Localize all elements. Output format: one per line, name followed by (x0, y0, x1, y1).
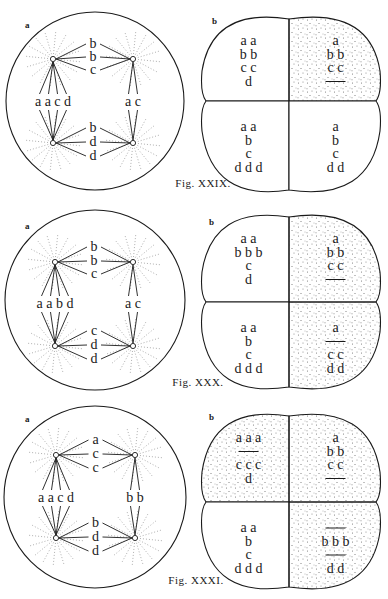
right-spindle: a c (125, 62, 141, 140)
panel-letter-a: a (25, 414, 30, 424)
panel-b-four-cell-embryo: ba ab b bcdab bc ca abcd d dac cd d (202, 215, 381, 389)
chromosome-line: d d d (235, 361, 263, 376)
chromosome-label: d (91, 337, 98, 352)
chromosome-label: c (91, 323, 97, 338)
chromosome-label: d (90, 134, 97, 149)
chromosome-label: b (92, 515, 99, 530)
panel-a-spindle-diagram: aaccbdda a c db b (4, 406, 186, 588)
centrosome (52, 343, 57, 348)
chromosome-label: d (92, 529, 99, 544)
chromosome-group-label: a c (125, 296, 141, 311)
figure-xxix: abbcbdda a c da c ba ab bc cdab bc ca ab… (6, 12, 381, 192)
panel-letter-a: a (25, 20, 30, 30)
figure-plate: abbcbdda a c da c ba ab bc cdab bc ca ab… (0, 0, 388, 599)
chromosome-label: c (91, 266, 97, 281)
left-spindle: a a c d (38, 458, 74, 535)
panel-b-four-cell-embryo: ba a ac c cdab bc ca abcd d db b bd d (202, 412, 381, 589)
panel-letter-a: a (25, 221, 30, 231)
chromosome-line: d d (327, 561, 345, 576)
panel-b-four-cell-embryo: ba ab bc cdab bc ca abcd d dabcd d (202, 16, 381, 192)
chromosome-group-label: a a c d (35, 94, 71, 109)
panel-letter-b: b (209, 412, 214, 422)
chromosome-line: c c (328, 258, 344, 273)
panel-a-spindle-diagram: abbcbdda a c da c (6, 12, 184, 190)
chromosome-line: d d d (235, 561, 263, 576)
plate-svg: abbcbdda a c da c ba ab bc cdab bc ca ab… (0, 0, 388, 599)
centrosome (53, 535, 58, 540)
chromosome-line: d (245, 272, 252, 287)
blastomere-bottom-right (289, 302, 381, 389)
chromosome-group-label: b b (126, 490, 144, 505)
top-spindle: bbc (58, 239, 130, 281)
chromosome-line: d (245, 471, 252, 486)
chromosome-label: d (91, 351, 98, 366)
centrosome (132, 452, 137, 457)
chromosome-line: a (332, 320, 339, 335)
chromosome-label: d (92, 543, 99, 558)
chromosome-label: c (90, 62, 96, 77)
chromosome-line: d (245, 74, 252, 89)
chromosome-group-label: a a c d (38, 490, 74, 505)
bottom-spindle: cdd (58, 323, 130, 366)
left-spindle: a a b d (37, 265, 74, 343)
panel-letter-b: b (209, 217, 214, 227)
centrosome (130, 259, 135, 264)
centrosome (132, 535, 137, 540)
chromosome-group-label: a a b d (37, 296, 74, 311)
right-spindle: b b (126, 458, 144, 535)
chromosome-label: b (90, 120, 97, 135)
chromosome-line: b b b (322, 534, 350, 549)
figure-caption: Fig. XXX. (172, 376, 223, 388)
centrosome (130, 56, 135, 61)
chromosome-line: d d d (235, 160, 263, 175)
centrosome (130, 140, 135, 145)
centrosome (53, 452, 58, 457)
chromosome-label: a (92, 432, 99, 447)
chromosome-label: d (90, 148, 97, 163)
centrosome (130, 343, 135, 348)
figure-caption: Fig. XXXI. (168, 574, 223, 586)
figure-xxxi: aaccbdda a c db b ba a ac c cdab bc ca a… (4, 406, 381, 589)
panel-letter-b: b (212, 16, 217, 26)
panel-a-spindle-diagram: abbccdda a b da c (5, 210, 185, 390)
figure-xxx: abbccdda a b da c ba ab b bcdab bc ca ab… (5, 210, 381, 390)
chromosome-line: a a a (236, 430, 262, 445)
left-spindle: a a c d (35, 62, 71, 140)
chromosome-line: c c (328, 457, 344, 472)
centrosome (52, 259, 57, 264)
centrosome (50, 140, 55, 145)
right-spindle: a c (125, 265, 141, 343)
top-spindle: bbc (56, 36, 130, 77)
chromosome-label: b (91, 239, 98, 254)
figure-caption: Fig. XXIX. (175, 177, 230, 189)
chromosome-line: d d (327, 160, 345, 175)
chromosome-line: d d (327, 361, 345, 376)
centrosome (50, 56, 55, 61)
chromosome-label: c (92, 446, 98, 461)
chromosome-group-label: a c (125, 94, 141, 109)
chromosome-line: c c (328, 60, 344, 75)
chromosome-label: c (92, 460, 98, 475)
